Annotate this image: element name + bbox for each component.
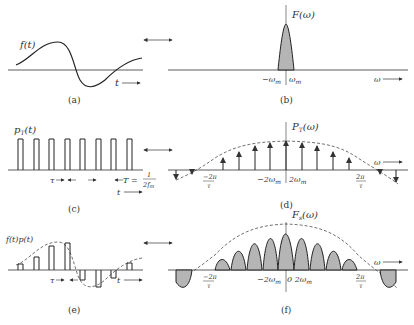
caption-d: (d) xyxy=(280,200,293,210)
panel-f: Fs(ω) −2π τ −2ωm 0 2ωm 2π τ ω (f) xyxy=(168,209,408,315)
svg-text:1: 1 xyxy=(147,171,151,179)
svg-text:−2π: −2π xyxy=(203,273,218,281)
svg-text:ω: ω xyxy=(374,258,381,267)
panel-b: F(ω) −ωm ωm ω (b) xyxy=(168,5,408,105)
panel-a: f(t) t (a) xyxy=(8,39,143,105)
svg-text:t: t xyxy=(117,188,121,197)
svg-text:−2π: −2π xyxy=(203,173,218,181)
envelope-curve xyxy=(16,242,142,287)
F-omega-label: F(ω) xyxy=(291,9,315,20)
caption-f: (f) xyxy=(281,305,291,315)
sampled-pulses xyxy=(18,243,132,287)
svg-text:τ: τ xyxy=(50,276,55,285)
svg-text:τ: τ xyxy=(207,182,211,190)
sampling-figure: f(t) t (a) F(ω) −ωm ωm ω (b) pT(t) τ T =… xyxy=(0,0,414,325)
caption-c: (c) xyxy=(68,204,80,214)
svg-text:2π: 2π xyxy=(355,173,365,181)
spectrum-lobe xyxy=(278,24,294,70)
svg-text:2π: 2π xyxy=(355,273,365,281)
panel-e: f(t)p(t) τ t (e) xyxy=(5,235,143,315)
svg-text:τ: τ xyxy=(359,182,363,190)
Fs-omega-label: Fs(ω) xyxy=(291,209,318,221)
ft-label: f(t) xyxy=(19,39,36,50)
ftpt-label: f(t)p(t) xyxy=(5,235,33,244)
svg-text:t: t xyxy=(117,276,121,285)
pos-2wm-tick: 2ωm xyxy=(288,175,307,185)
caption-a: (a) xyxy=(68,95,80,105)
pt-label: pT(t) xyxy=(14,124,36,136)
panel-d: PT(ω) −2π τ −2ωm 2ωm 2π τ ω (d) xyxy=(168,121,408,210)
neg-2wm-tick: −2ωm xyxy=(257,175,281,185)
t-label: t xyxy=(115,77,120,88)
neg-wm-tick: −ωm xyxy=(262,75,281,85)
pos-wm-tick: ωm xyxy=(289,75,302,85)
svg-text:−2ωm: −2ωm xyxy=(257,275,281,285)
svg-text:ω: ω xyxy=(374,158,381,167)
pulse-train xyxy=(18,139,132,170)
caption-b: (b) xyxy=(280,95,293,105)
svg-text:2fm: 2fm xyxy=(142,181,155,189)
svg-text:τ: τ xyxy=(359,282,363,290)
panel-c: pT(t) τ T = 1 2fm t (c) xyxy=(8,124,156,214)
tau-label-c: τ xyxy=(50,176,55,185)
svg-text:0 2ωm: 0 2ωm xyxy=(287,275,312,285)
omega-label-b: ω xyxy=(374,75,381,84)
Pt-omega-label: PT(ω) xyxy=(291,121,319,133)
period-label: T = xyxy=(123,176,138,185)
svg-text:τ: τ xyxy=(207,282,211,290)
caption-e: (e) xyxy=(68,305,80,315)
